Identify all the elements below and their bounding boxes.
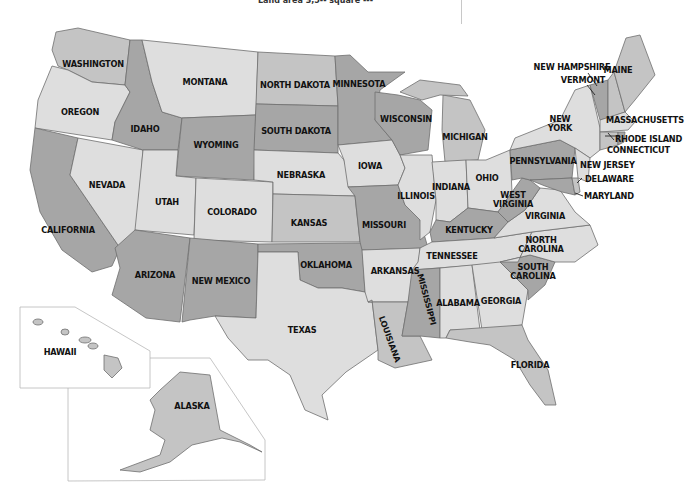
label-delaware: DELAWARE xyxy=(585,174,634,184)
label-montana: MONTANA xyxy=(182,77,228,87)
state-michigan[interactable] xyxy=(442,95,485,162)
label-new-hampshire: NEW HAMPSHIRE xyxy=(534,62,611,72)
label-south-dakota: SOUTH DAKOTA xyxy=(261,126,332,136)
label-wisconsin: WISCONSIN xyxy=(380,114,432,124)
label-ohio: OHIO xyxy=(475,173,498,183)
us-map: WASHINGTON OREGON CALIFORNIA NEVADA IDAH… xyxy=(0,0,699,494)
label-wyoming: WYOMING xyxy=(194,140,239,150)
label-tennessee: TENNESSEE xyxy=(426,251,477,261)
label-rhode-island: RHODE ISLAND xyxy=(615,134,683,144)
label-missouri: MISSOURI xyxy=(362,220,406,230)
label-alabama: ALABAMA xyxy=(436,298,480,308)
label-utah: UTAH xyxy=(155,197,179,207)
state-michigan-up[interactable] xyxy=(400,80,468,100)
label-massachusetts: MASSACHUSETTS xyxy=(606,115,684,125)
label-north-carolina-2: CAROLINA xyxy=(518,244,564,254)
label-connecticut: CONNECTICUT xyxy=(607,145,671,155)
label-virginia: VIRGINIA xyxy=(525,211,566,221)
label-new-jersey: NEW JERSEY xyxy=(580,160,636,170)
label-new-mexico: NEW MEXICO xyxy=(192,276,251,286)
label-minnesota: MINNESOTA xyxy=(333,79,387,89)
state-north-dakota[interactable] xyxy=(256,52,338,106)
label-north-dakota: NORTH DAKOTA xyxy=(260,80,331,90)
label-nevada: NEVADA xyxy=(89,180,126,190)
label-hawaii: HAWAII xyxy=(44,347,77,357)
label-pennsylvania: PENNSYLVANIA xyxy=(509,156,577,166)
label-arizona: ARIZONA xyxy=(135,270,176,280)
label-washington: WASHINGTON xyxy=(62,59,124,69)
label-colorado: COLORADO xyxy=(207,207,257,217)
label-kentucky: KENTUCKY xyxy=(445,225,494,235)
label-idaho: IDAHO xyxy=(131,124,160,134)
label-illinois: ILLINOIS xyxy=(397,191,435,201)
label-california: CALIFORNIA xyxy=(41,225,96,235)
label-vermont: VERMONT xyxy=(561,75,606,85)
label-florida: FLORIDA xyxy=(511,360,550,370)
label-alaska: ALASKA xyxy=(174,401,210,411)
label-oregon: OREGON xyxy=(61,107,100,117)
label-oklahoma: OKLAHOMA xyxy=(300,260,352,270)
label-georgia: GEORGIA xyxy=(481,296,522,306)
label-indiana: INDIANA xyxy=(432,182,471,192)
label-maryland: MARYLAND xyxy=(584,191,634,201)
label-kansas: KANSAS xyxy=(291,218,328,228)
label-texas: TEXAS xyxy=(288,325,317,335)
label-arkansas: ARKANSAS xyxy=(371,266,420,276)
label-south-carolina-2: CAROLINA xyxy=(510,271,556,281)
label-nebraska: NEBRASKA xyxy=(277,170,326,180)
state-alaska[interactable] xyxy=(120,372,262,472)
label-michigan: MICHIGAN xyxy=(442,132,488,142)
label-iowa: IOWA xyxy=(358,161,383,171)
label-west-virginia-2: VIRGINIA xyxy=(493,199,534,209)
label-new-york-2: YORK xyxy=(547,123,573,133)
